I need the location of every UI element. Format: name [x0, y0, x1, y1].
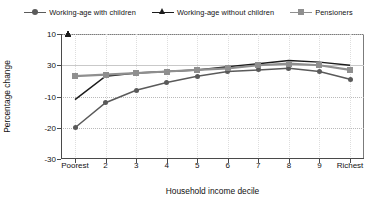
- data-point: [73, 125, 78, 130]
- legend-swatch: [290, 8, 312, 17]
- x-axis-tick-label: Richest: [337, 161, 364, 170]
- triangle-marker-icon: [159, 8, 165, 14]
- series-line: [75, 61, 350, 100]
- data-point: [194, 67, 200, 73]
- chart-figure: Working-age with childrenWorking-age wit…: [0, 0, 377, 207]
- x-axis-tick-label: 9: [317, 161, 321, 170]
- x-axis-title: Household income decile: [61, 186, 364, 196]
- plot-area: 1030-10-20-30 Poorest23456789Richest: [61, 34, 364, 159]
- data-point: [133, 70, 139, 76]
- legend-swatch: [152, 8, 174, 17]
- y-axis-tick-label: -10: [44, 92, 56, 101]
- legend-entry[interactable]: Pensioners: [290, 8, 353, 17]
- y-axis-tick-label: 30: [47, 61, 56, 70]
- legend-swatch: [24, 8, 46, 17]
- x-axis-tick-label: 6: [226, 161, 230, 170]
- legend-label: Working-age with children: [49, 8, 136, 17]
- series-line: [75, 68, 350, 127]
- data-point: [348, 77, 353, 82]
- y-axis-tick-label: -20: [44, 123, 56, 132]
- circle-marker-icon: [32, 9, 38, 15]
- y-axis-tick-label: 10: [47, 30, 56, 39]
- data-point: [164, 69, 170, 75]
- data-point: [65, 31, 71, 37]
- data-point: [317, 69, 322, 74]
- data-point: [195, 74, 200, 79]
- data-point: [134, 88, 139, 93]
- legend-entry[interactable]: Working-age with children: [24, 8, 136, 17]
- data-point: [103, 72, 109, 78]
- data-point: [286, 61, 292, 67]
- data-point: [225, 65, 231, 71]
- y-axis-title: Percentage change: [2, 34, 14, 159]
- data-point: [72, 73, 78, 79]
- legend-label: Pensioners: [315, 8, 353, 17]
- data-point: [347, 67, 353, 73]
- x-axis-tick-label: 2: [103, 161, 107, 170]
- series-lines: [61, 34, 364, 159]
- x-axis-tick-label: 3: [134, 161, 138, 170]
- legend-entry[interactable]: Working-age without children: [152, 8, 274, 17]
- data-point: [255, 62, 261, 68]
- chart-legend: Working-age with childrenWorking-age wit…: [0, 4, 377, 20]
- x-axis-tick-label: Poorest: [61, 161, 89, 170]
- legend-label: Working-age without children: [177, 8, 274, 17]
- x-axis-tick-label: 5: [195, 161, 199, 170]
- data-point: [316, 62, 322, 68]
- y-axis-tick: [57, 159, 61, 160]
- square-marker-icon: [298, 9, 304, 15]
- x-axis-tick-label: 8: [287, 161, 291, 170]
- x-axis-tick-label: 4: [164, 161, 168, 170]
- x-axis-tick-label: 7: [256, 161, 260, 170]
- y-axis-tick-label: -30: [44, 155, 56, 164]
